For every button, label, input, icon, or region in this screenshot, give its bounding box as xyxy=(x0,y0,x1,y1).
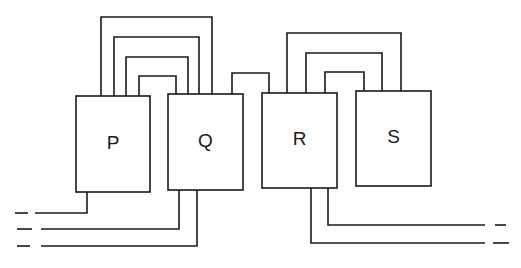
block-q: Q xyxy=(168,94,243,190)
block-p: P xyxy=(76,96,150,192)
pq-loop-4-wire xyxy=(139,76,176,96)
rs-loop-1-wire xyxy=(287,33,401,93)
block-q-label: Q xyxy=(198,130,213,151)
r-out-right-2-wire xyxy=(311,188,485,243)
qr-bridge-wire xyxy=(232,73,269,94)
block-r-label: R xyxy=(293,128,307,149)
q-out-left-2-wire xyxy=(41,190,197,246)
blocks: PQRS xyxy=(76,91,431,192)
block-r: R xyxy=(262,93,337,188)
q-out-left-1-wire xyxy=(41,190,179,229)
rs-loop-2-wire xyxy=(306,53,382,93)
rs-loop-3-wire xyxy=(325,72,364,93)
top-interconnect-wires xyxy=(101,17,401,96)
r-out-right-1-wire xyxy=(328,188,485,225)
block-diagram: PQRS xyxy=(0,0,521,268)
block-s-label: S xyxy=(387,126,400,147)
block-p-label: P xyxy=(107,132,120,153)
p-out-left-wire xyxy=(35,192,87,213)
bottom-external-wires xyxy=(15,188,509,246)
block-s: S xyxy=(356,91,431,186)
